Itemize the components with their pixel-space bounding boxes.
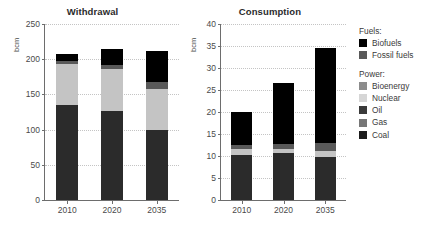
- bar-segment-biofuels: [315, 48, 336, 143]
- figure-root: Withdrawal bcm 0501001502002502010202020…: [0, 0, 437, 226]
- bar-segment-nuclear: [101, 69, 123, 111]
- y-axis-tick: [218, 90, 222, 91]
- y-axis-tick: [218, 178, 222, 179]
- legend-label-gas: Gas: [372, 118, 387, 126]
- y-axis-tick-label: 35: [207, 41, 216, 51]
- chart-panel-withdrawal: Withdrawal bcm 0501001502002502010202020…: [0, 0, 185, 226]
- bar-consumption-2010: [231, 24, 252, 200]
- y-axis-tick: [218, 68, 222, 69]
- x-axis-tick-label: 2035: [147, 205, 166, 215]
- chart-title-withdrawal: Withdrawal: [0, 6, 185, 17]
- bar-segment-coal: [101, 111, 123, 200]
- legend-swatch-coal: [359, 131, 367, 139]
- y-axis-tick-label: 150: [26, 89, 40, 99]
- legend-group-header-power: Power:: [359, 69, 437, 79]
- y-axis-tick-label: 15: [207, 129, 216, 139]
- plot-area-consumption: 0510152025303540201020202035: [220, 24, 346, 201]
- y-axis-tick-label: 5: [211, 173, 216, 183]
- bar-segment-biofuels: [146, 51, 168, 82]
- legend-item-biofuels: Biofuels: [359, 39, 437, 47]
- y-axis-tick: [42, 59, 46, 60]
- y-axis-tick: [218, 200, 222, 201]
- y-axis-tick: [42, 165, 46, 166]
- legend-group-header-fuels: Fuels:: [359, 26, 437, 36]
- bar-segment-biofuels: [101, 49, 123, 65]
- legend-item-coal: Coal: [359, 131, 437, 139]
- x-axis-tick: [67, 200, 68, 204]
- y-axis-tick: [42, 94, 46, 95]
- bar-withdrawal-2020: [101, 24, 123, 200]
- legend-label-oil: Oil: [372, 106, 382, 114]
- bar-segment-fossil-fuels: [315, 143, 336, 151]
- x-axis-tick: [157, 200, 158, 204]
- bar-segment-fossil-fuels: [231, 145, 252, 149]
- chart-title-consumption: Consumption: [185, 6, 355, 17]
- x-axis-tick-label: 2010: [232, 205, 251, 215]
- legend-label-nuclear: Nuclear: [372, 94, 401, 102]
- legend-label-biofuels: Biofuels: [372, 39, 402, 47]
- bar-segment-coal: [315, 157, 336, 200]
- bar-segment-nuclear: [315, 151, 336, 158]
- bar-segment-coal: [146, 130, 168, 200]
- y-axis-tick: [218, 134, 222, 135]
- legend-label-fossil-fuels: Fossil fuels: [372, 51, 414, 59]
- legend-swatch-fossil-fuels: [359, 51, 367, 59]
- bar-withdrawal-2035: [146, 24, 168, 200]
- legend-swatch-nuclear: [359, 94, 367, 102]
- bar-segment-nuclear: [273, 149, 294, 154]
- y-axis-tick: [42, 130, 46, 131]
- legend-swatch-biofuels: [359, 39, 367, 47]
- y-axis-tick-label: 0: [35, 195, 40, 205]
- bar-segment-fossil-fuels: [146, 82, 168, 90]
- legend: Fuels: Biofuels Fossil fuels Power: Bioe…: [359, 26, 437, 143]
- y-axis-tick: [218, 112, 222, 113]
- y-axis-tick-label: 100: [26, 125, 40, 135]
- bar-consumption-2035: [315, 24, 336, 200]
- legend-item-nuclear: Nuclear: [359, 94, 437, 102]
- bar-segment-biofuels: [231, 112, 252, 145]
- y-axis-tick: [218, 24, 222, 25]
- y-axis-tick: [42, 24, 46, 25]
- x-axis-tick: [112, 200, 113, 204]
- y-axis-tick-label: 200: [26, 54, 40, 64]
- legend-swatch-gas: [359, 119, 367, 127]
- bar-consumption-2020: [273, 24, 294, 200]
- y-axis-tick-label: 50: [31, 160, 40, 170]
- legend-item-bioenergy: Bioenergy: [359, 82, 437, 90]
- bar-segment-fossil-fuels: [56, 61, 78, 65]
- y-axis-tick-label: 250: [26, 19, 40, 29]
- bar-segment-coal: [56, 105, 78, 200]
- legend-swatch-bioenergy: [359, 82, 367, 90]
- y-axis-tick-label: 20: [207, 107, 216, 117]
- y-axis-tick-label: 25: [207, 85, 216, 95]
- x-axis-tick: [325, 200, 326, 204]
- y-axis-tick-label: 30: [207, 63, 216, 73]
- y-axis-tick-label: 10: [207, 151, 216, 161]
- x-axis-tick-label: 2020: [274, 205, 293, 215]
- legend-item-fossil-fuels: Fossil fuels: [359, 51, 437, 59]
- bar-segment-coal: [231, 155, 252, 200]
- bar-segment-biofuels: [273, 83, 294, 144]
- y-axis-tick: [218, 156, 222, 157]
- y-axis-unit-label-consumption: bcm: [189, 38, 198, 52]
- y-axis-tick: [218, 46, 222, 47]
- bar-segment-nuclear: [146, 89, 168, 130]
- x-axis-tick-label: 2035: [316, 205, 335, 215]
- y-axis-tick: [42, 200, 46, 201]
- bar-segment-coal: [273, 153, 294, 200]
- bar-segment-fossil-fuels: [101, 65, 123, 69]
- y-axis-tick-label: 40: [207, 19, 216, 29]
- legend-item-gas: Gas: [359, 118, 437, 126]
- x-axis-tick-label: 2010: [58, 205, 77, 215]
- bar-segment-nuclear: [56, 64, 78, 105]
- y-axis-unit-label-withdrawal: bcm: [12, 38, 21, 52]
- x-axis-tick: [284, 200, 285, 204]
- bar-segment-nuclear: [231, 149, 252, 155]
- bar-withdrawal-2010: [56, 24, 78, 200]
- legend-swatch-oil: [359, 106, 367, 114]
- legend-label-bioenergy: Bioenergy: [372, 82, 409, 90]
- x-axis-tick-label: 2020: [103, 205, 122, 215]
- x-axis-tick: [242, 200, 243, 204]
- legend-item-oil: Oil: [359, 106, 437, 114]
- y-axis-tick-label: 0: [211, 195, 216, 205]
